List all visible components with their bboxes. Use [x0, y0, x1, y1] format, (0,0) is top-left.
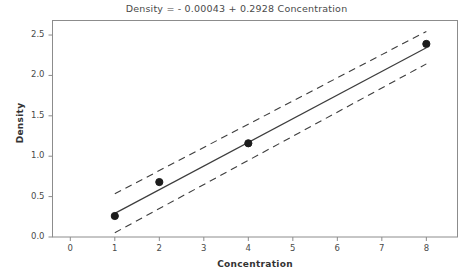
y-axis-ticks — [49, 35, 53, 237]
data-point — [111, 212, 118, 219]
plot-frame — [53, 21, 458, 238]
x-tick-label: 4 — [238, 243, 258, 253]
data-point — [245, 140, 252, 147]
x-tick-label: 6 — [327, 243, 347, 253]
y-tick-label: 0.0 — [11, 231, 45, 241]
y-tick-label: 2.0 — [11, 69, 45, 79]
x-axis-ticks — [70, 237, 426, 241]
x-tick-label: 5 — [283, 243, 303, 253]
x-tick-label: 7 — [372, 243, 392, 253]
x-tick-label: 1 — [105, 243, 125, 253]
y-tick-label: 1.5 — [11, 110, 45, 120]
plot-area — [0, 0, 473, 278]
x-tick-label: 8 — [416, 243, 436, 253]
x-tick-label: 2 — [149, 243, 169, 253]
fitted-line-plot: Density = - 0.00043 + 0.2928 Concentrati… — [0, 0, 473, 278]
y-tick-label: 1.0 — [11, 150, 45, 160]
y-tick-label: 2.5 — [11, 29, 45, 39]
data-point — [423, 40, 430, 47]
x-tick-label: 3 — [194, 243, 214, 253]
y-tick-label: 0.5 — [11, 191, 45, 201]
data-point — [156, 178, 163, 185]
x-tick-label: 0 — [60, 243, 80, 253]
